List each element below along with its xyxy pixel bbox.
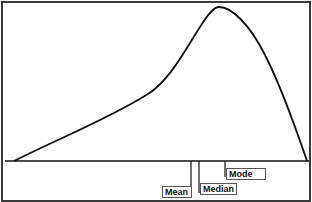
distribution-curve xyxy=(14,7,307,161)
mean-label: Mean xyxy=(162,186,192,198)
median-label: Median xyxy=(200,183,237,195)
mode-label: Mode xyxy=(226,168,266,180)
